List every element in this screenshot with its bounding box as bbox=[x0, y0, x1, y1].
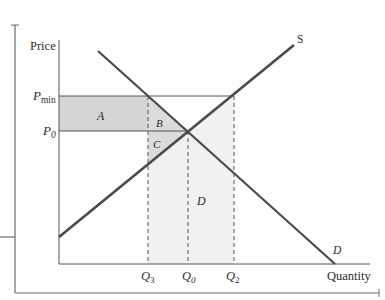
price-floor-diagram: Price Quantity Pmin P0 Q3 Q0 Q2 S D A B … bbox=[0, 0, 385, 300]
region-c-label: C bbox=[153, 138, 161, 150]
pmin-label: Pmin bbox=[32, 88, 56, 105]
q3-label: Q3 bbox=[141, 269, 155, 285]
x-axis-label: Quantity bbox=[327, 269, 371, 283]
region-b-label: B bbox=[156, 117, 163, 129]
region-d-label: D bbox=[196, 194, 206, 208]
demand-curve-label: D bbox=[332, 244, 342, 256]
region-a-label: A bbox=[96, 109, 105, 123]
p0-label: P0 bbox=[42, 123, 56, 140]
q0-label: Q0 bbox=[182, 269, 196, 285]
supply-curve-label: S bbox=[297, 33, 303, 45]
q2-label: Q2 bbox=[226, 269, 240, 285]
y-axis-label: Price bbox=[30, 39, 56, 53]
shaded-regions bbox=[59, 96, 234, 264]
